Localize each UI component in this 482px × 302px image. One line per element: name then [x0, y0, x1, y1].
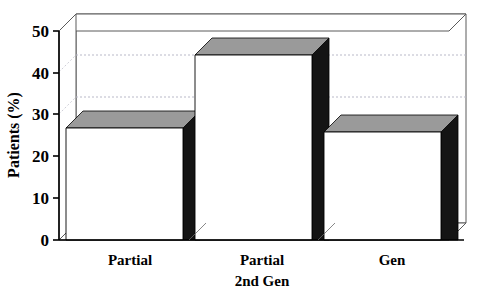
- x-tick-label-partial-2nd-gen-line1: Partial: [240, 252, 284, 268]
- bar-partial-front: [66, 128, 183, 240]
- bar-chart-canvas: 0 10 20 30 40 50 Patients (%) Partial Pa…: [0, 0, 482, 302]
- x-tick-label-gen: Gen: [379, 252, 406, 268]
- y-tick-label-20: 20: [32, 147, 49, 166]
- bar-gen-front: [324, 132, 441, 240]
- bar-partial-2nd-gen[interactable]: [195, 38, 329, 240]
- y-tick-label-50: 50: [32, 22, 49, 41]
- bar-gen[interactable]: [324, 115, 458, 240]
- bar-gen-top: [324, 115, 458, 132]
- ceiling-face: [59, 14, 466, 31]
- x-tick-labels: Partial Partial 2nd Gen Gen: [108, 252, 406, 289]
- chart-figure: 0 10 20 30 40 50 Patients (%) Partial Pa…: [0, 0, 482, 302]
- y-tick-labels: 0 10 20 30 40 50: [32, 22, 49, 250]
- y-axis-title: Patients (%): [5, 92, 23, 178]
- bar-partial-top: [66, 111, 200, 128]
- y-tick-label-40: 40: [32, 64, 49, 83]
- x-tick-label-partial-2nd-gen-line2: 2nd Gen: [235, 273, 290, 289]
- y-tick-label-0: 0: [41, 231, 50, 250]
- bar-partial-2nd-gen-top: [195, 38, 329, 55]
- x-tick-label-partial: Partial: [108, 252, 152, 268]
- bar-gen-side: [441, 115, 458, 240]
- bar-partial-2nd-gen-front: [195, 55, 312, 240]
- bar-partial[interactable]: [66, 111, 200, 240]
- y-tick-label-30: 30: [32, 105, 49, 124]
- y-tick-label-10: 10: [32, 189, 49, 208]
